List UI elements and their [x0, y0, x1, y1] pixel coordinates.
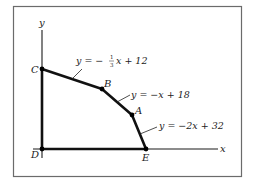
region-boundary [42, 69, 146, 149]
equation-CB-suffix: x + 12 [116, 55, 147, 66]
leader-eq-AE [140, 127, 157, 134]
vertex-C [40, 67, 45, 72]
equation-BA: y = −x + 18 [130, 89, 190, 100]
equation-CB-prefix: y = − [75, 55, 103, 66]
label-E: E [141, 152, 150, 163]
x-axis-label: x [220, 143, 226, 154]
equation-CB-numerator: 1 [110, 54, 114, 60]
equation-CB: y = − 1 3 x + 12 [75, 54, 147, 68]
label-A: A [134, 105, 142, 116]
vertex-A [130, 113, 135, 118]
vertex-D [40, 147, 45, 152]
vertex-E [144, 147, 149, 152]
equation-CB-denominator: 3 [110, 62, 114, 68]
label-C: C [31, 64, 39, 75]
feasible-region-diagram: y x C B A E D y = − 1 3 x + 12 y = −x + … [0, 0, 256, 183]
label-B: B [103, 78, 111, 89]
leader-eq-BA [117, 95, 130, 102]
figure-frame [14, 7, 242, 177]
leader-eq-CB [72, 69, 82, 79]
label-D: D [30, 149, 39, 160]
y-axis-label: y [38, 17, 45, 28]
equation-AE: y = −2x + 32 [158, 120, 224, 131]
